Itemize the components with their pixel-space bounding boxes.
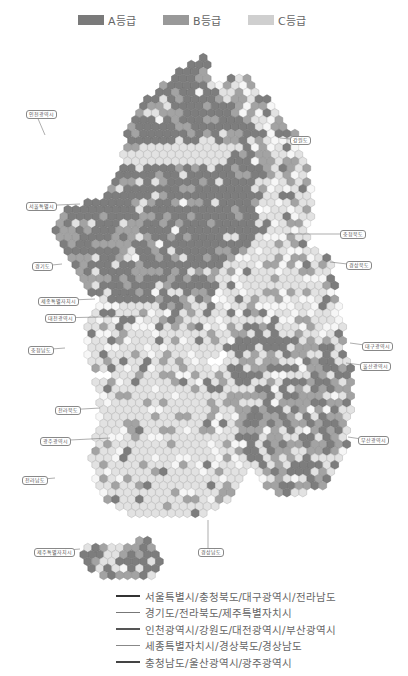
hex-cell-c (136, 509, 144, 518)
region-label: 서울특별시 (26, 202, 57, 211)
boundary-legend-label: 세종특별자치시/경상북도/경상남도 (145, 638, 302, 653)
hex-cell-a (88, 288, 96, 297)
hex-cell-c (183, 509, 191, 518)
hex-cell-c (199, 509, 207, 518)
boundary-legend-item: 충청남도/울산광역시/광주광역시 (116, 654, 336, 671)
hex-cell-c (291, 488, 299, 497)
boundary-line-swatch (116, 595, 140, 597)
legend-label: B등급 (193, 12, 221, 28)
hex-cell-a (311, 481, 319, 490)
region-label: 세종특별자치시 (38, 297, 79, 306)
hex-cell-b (319, 481, 327, 490)
hex-cell-b (132, 571, 140, 580)
hex-cell-c (128, 509, 136, 518)
hex-cell-b (116, 571, 124, 580)
boundary-legend-item: 경기도/전라북도/제주특별자치시 (116, 605, 336, 622)
region-label: 부산광역시 (358, 436, 389, 445)
hex-cell-c (148, 571, 156, 580)
region-label: 대전광역시 (45, 314, 76, 323)
hex-cell-c (152, 509, 160, 518)
hex-cell-c (299, 488, 307, 497)
boundary-line-swatch (116, 612, 140, 613)
hex-cell-c (211, 502, 219, 511)
region-label: 경상북도 (346, 261, 372, 270)
region-label: 강원도 (290, 136, 311, 145)
hex-cell-b (104, 495, 112, 504)
hex-cell-c (211, 350, 219, 359)
legend-label: A등급 (108, 12, 136, 28)
region-label: 광주광역시 (40, 437, 71, 446)
hex-cell-c (175, 509, 183, 518)
legend-item-grade: C등급 (248, 12, 306, 28)
region-label: 인천광역시 (26, 110, 57, 119)
hex-cell-c (223, 495, 231, 504)
legend-swatch (248, 15, 274, 25)
hex-cell-b (100, 571, 108, 580)
legend-item-grade: A등급 (78, 12, 136, 28)
boundary-legend-item: 서울특별시/충청북도/대구광역시/전라남도 (116, 588, 336, 605)
boundary-line-legend: 서울특별시/충청북도/대구광역시/전라남도경기도/전라북도/제주특별자치시인천광… (116, 588, 336, 671)
region-label: 제주특별자치시 (34, 548, 75, 557)
boundary-line-swatch (116, 645, 140, 646)
boundary-legend-label: 충청남도/울산광역시/광주광역시 (145, 655, 292, 670)
hex-cell-a (140, 571, 148, 580)
region-label: 경기도 (32, 262, 53, 271)
boundary-legend-item: 인천광역시/강원도/대전광역시/부산광역시 (116, 621, 336, 638)
hex-cell-a (191, 509, 199, 518)
region-label: 전라남도 (22, 476, 48, 485)
hex-cell-b (92, 364, 100, 373)
boundary-line-swatch (116, 661, 140, 663)
region-label: 충청남도 (28, 346, 54, 355)
region-label: 경상남도 (198, 548, 224, 557)
region-label: 울산광역시 (360, 362, 391, 371)
hex-cell-a (88, 564, 96, 573)
legend-item-grade: B등급 (163, 12, 221, 28)
hex-cell-a (283, 488, 291, 497)
legend-label: C등급 (278, 12, 306, 28)
hex-cell-b (124, 571, 132, 580)
hex-cell-b (263, 481, 271, 490)
boundary-line-swatch (116, 628, 140, 630)
hex-cell-c (144, 509, 152, 518)
legend-swatch (78, 15, 104, 25)
boundary-legend-label: 경기도/전라북도/제주특별자치시 (145, 605, 292, 620)
hex-cell-c (160, 509, 168, 518)
region-label: 전라북도 (55, 406, 81, 415)
region-label: 대구광역시 (362, 342, 393, 351)
grade-legend: A등급B등급C등급 (0, 12, 408, 30)
hex-cell-c (168, 509, 176, 518)
boundary-legend-label: 서울특별시/충청북도/대구광역시/전라남도 (145, 589, 336, 604)
region-label: 충청북도 (340, 230, 366, 239)
legend-swatch (163, 15, 189, 25)
boundary-legend-label: 인천광역시/강원도/대전광역시/부산광역시 (145, 622, 336, 637)
boundary-legend-item: 세종특별자치시/경상북도/경상남도 (116, 638, 336, 655)
hex-cell-b (275, 488, 283, 497)
hex-cell-a (108, 571, 116, 580)
hex-cell-c (100, 364, 108, 373)
hex-cell-c (116, 502, 124, 511)
